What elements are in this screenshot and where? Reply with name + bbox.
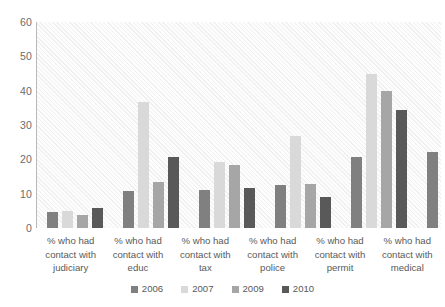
plot-area [37, 22, 441, 228]
y-axis-tick-label: 20 [20, 154, 32, 164]
chart-legend: 2006200720092010 [0, 280, 445, 298]
bar [77, 215, 88, 228]
bar [351, 157, 362, 228]
bar [320, 197, 331, 228]
x-axis-category-label: % who had contact with medical [374, 232, 441, 278]
bar [199, 190, 210, 228]
bar [123, 191, 134, 228]
bar-group [265, 22, 341, 228]
legend-swatch-icon [282, 286, 289, 293]
bar-groups [37, 22, 441, 228]
legend-label: 2010 [293, 284, 314, 294]
legend-label: 2009 [243, 284, 264, 294]
bar [366, 74, 377, 229]
bar [47, 212, 58, 228]
x-axis-category-label: % who had contact with judiciary [37, 232, 104, 278]
bar [275, 185, 286, 228]
bar-group [417, 22, 441, 228]
legend-swatch-icon [131, 286, 138, 293]
bar-group [341, 22, 417, 228]
bar-group [189, 22, 265, 228]
legend-label: 2007 [192, 284, 213, 294]
x-axis-category-label: % who had contact with permit [306, 232, 373, 278]
bar [290, 136, 301, 228]
bar [396, 110, 407, 228]
legend-item[interactable]: 2010 [282, 284, 314, 294]
bar [381, 91, 392, 228]
bar [244, 188, 255, 228]
legend-item[interactable]: 2006 [131, 284, 163, 294]
bar [305, 184, 316, 228]
legend-swatch-icon [181, 286, 188, 293]
bar [229, 165, 240, 228]
bar [92, 208, 103, 228]
y-axis-tick-label: 10 [20, 189, 32, 199]
legend-swatch-icon [232, 286, 239, 293]
x-axis-category-label: % who had contact with educ [104, 232, 171, 278]
bar-group [37, 22, 113, 228]
x-axis-category-label: % who had contact with tax [172, 232, 239, 278]
bar-chart: 60 50 40 30 20 10 0 % who had contact wi… [0, 0, 445, 307]
bar-group [113, 22, 189, 228]
legend-item[interactable]: 2009 [232, 284, 264, 294]
bar [153, 182, 164, 228]
y-axis-tick-label: 40 [20, 86, 32, 96]
y-axis-tick-label: 50 [20, 51, 32, 61]
y-axis-tick-label: 0 [26, 223, 32, 233]
bar [168, 157, 179, 228]
plot-wrapper: 60 50 40 30 20 10 0 [0, 0, 445, 232]
x-axis-category-label: % who had contact with police [239, 232, 306, 278]
y-axis-tick-label: 30 [20, 120, 32, 130]
legend-label: 2006 [142, 284, 163, 294]
x-axis-category-labels: % who had contact with judiciary% who ha… [37, 232, 441, 278]
bar [214, 162, 225, 228]
bar [138, 102, 149, 228]
legend-item[interactable]: 2007 [181, 284, 213, 294]
y-axis: 60 50 40 30 20 10 0 [0, 0, 37, 232]
y-axis-tick-label: 60 [20, 17, 32, 27]
bar [62, 211, 73, 229]
bar [427, 152, 438, 228]
